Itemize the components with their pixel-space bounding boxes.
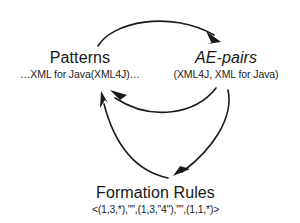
- node-ae-pairs: AE-pairs (XML4J, XML for Java): [152, 50, 300, 80]
- arrowhead-into-ae-pairs: [206, 31, 221, 44]
- node-formation-rules-label: Formation Rules: [58, 185, 253, 202]
- arrowhead-into-patterns-from-ae-pairs: [110, 90, 127, 104]
- diagram-canvas: Patterns …XML for Java(XML4J)… AE-pairs …: [0, 0, 300, 223]
- node-ae-pairs-label: AE-pairs: [152, 50, 300, 67]
- edge-formation-rules-to-patterns: [104, 104, 168, 178]
- edge-patterns-to-ae-pairs: [98, 21, 214, 46]
- node-patterns: Patterns …XML for Java(XML4J)…: [0, 50, 160, 80]
- edge-ae-pairs-to-patterns: [115, 88, 216, 112]
- node-patterns-label: Patterns: [0, 50, 160, 67]
- node-patterns-sublabel: …XML for Java(XML4J)…: [0, 69, 160, 80]
- arrowhead-into-formation-rules: [173, 162, 190, 176]
- node-formation-rules: Formation Rules <(1,3,*),"",(1,3,"4"),""…: [58, 185, 253, 215]
- edge-ae-pairs-to-formation-rules: [182, 90, 229, 172]
- node-ae-pairs-sublabel: (XML4J, XML for Java): [152, 69, 300, 80]
- node-formation-rules-sublabel: <(1,3,*),"",(1,3,"4"),"",(1,1,*)>: [58, 204, 253, 215]
